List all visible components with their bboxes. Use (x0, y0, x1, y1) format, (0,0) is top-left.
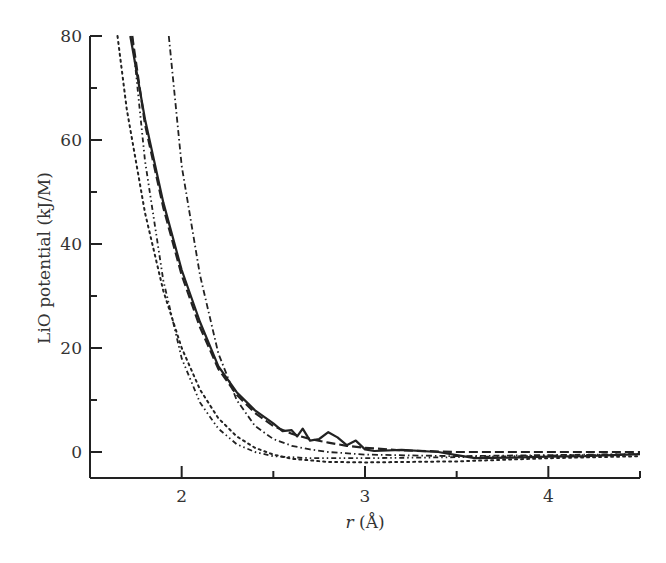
data-series (118, 36, 641, 462)
chart: 020406080234 LiO potential (kJ/M) r (Å) (0, 0, 666, 563)
y-tick-label: 0 (71, 442, 82, 462)
x-tick-label: 3 (360, 486, 371, 506)
y-axis-label: LiO potential (kJ/M) (34, 172, 54, 344)
series-dash-dot-left (132, 36, 640, 458)
x-axis-label: r (Å) (345, 512, 384, 532)
series-dash-dot-right (169, 36, 640, 456)
y-tick-label: 60 (60, 130, 82, 150)
series-dashed (132, 36, 640, 452)
y-tick-label: 40 (60, 234, 82, 254)
series-solid (130, 36, 640, 458)
series-dotted (118, 36, 641, 462)
axes (90, 36, 640, 478)
x-tick-label: 4 (543, 486, 554, 506)
x-axis-label-unit: (Å) (354, 512, 385, 532)
y-tick-label: 20 (60, 338, 82, 358)
ticks (90, 36, 640, 478)
x-tick-label: 2 (176, 486, 187, 506)
y-tick-label: 80 (60, 26, 82, 46)
